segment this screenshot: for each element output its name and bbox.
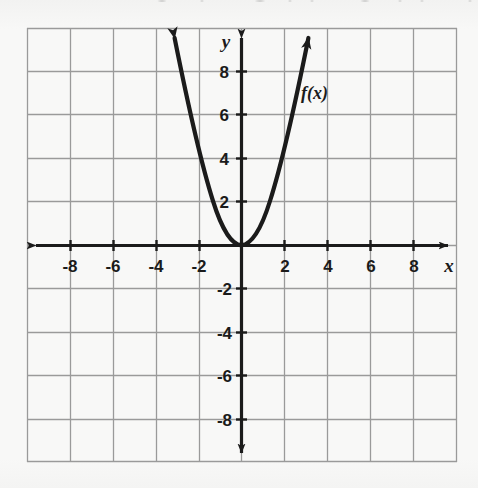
- y-tick-label-neg-2: -2: [217, 280, 232, 299]
- x-tick-label-neg-6: -6: [105, 257, 120, 276]
- graph-figure: -8 -6 -4 -2 2 4 6 8 8 6 4 2 -2 -4 -6 -8 …: [0, 0, 478, 488]
- y-tick-label-pos-2: 2: [220, 193, 229, 212]
- x-tick-label-pos-2: 2: [280, 257, 289, 276]
- x-tick-label-neg-2: -2: [191, 257, 206, 276]
- x-tick-label-pos-6: 6: [366, 257, 375, 276]
- y-tick-label-pos-4: 4: [220, 150, 230, 169]
- y-tick-label-pos-6: 6: [220, 106, 229, 125]
- y-tick-label-pos-8: 8: [220, 63, 229, 82]
- curve-label-fx: f(x): [301, 83, 328, 104]
- y-tick-label-neg-6: -6: [217, 367, 232, 386]
- x-tick-label-neg-4: -4: [148, 257, 164, 276]
- coordinate-plane-svg: -8 -6 -4 -2 2 4 6 8 8 6 4 2 -2 -4 -6 -8 …: [0, 0, 478, 488]
- y-axis-label: y: [220, 31, 231, 52]
- x-axis-label: x: [443, 255, 454, 276]
- y-tick-label-neg-4: -4: [217, 324, 233, 343]
- x-tick-label-neg-8: -8: [62, 257, 77, 276]
- y-tick-label-neg-8: -8: [217, 411, 232, 430]
- x-tick-label-pos-8: 8: [409, 257, 418, 276]
- x-tick-label-pos-4: 4: [323, 257, 333, 276]
